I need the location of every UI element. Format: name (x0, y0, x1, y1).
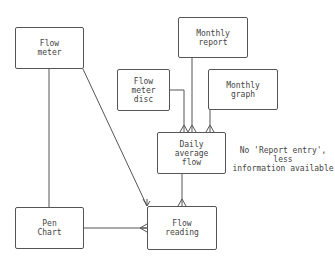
entity-flow-reading[interactable]: Flow reading (147, 206, 217, 250)
entity-flow-meter[interactable]: Flow meter (15, 27, 84, 69)
entity-monthly-report[interactable]: Monthly report (178, 17, 248, 58)
entity-daily-average-flow[interactable]: Daily average flow (157, 132, 226, 174)
entity-pen-chart[interactable]: Pen Chart (15, 207, 84, 249)
annotation-note: No 'Report entry', less information avai… (231, 146, 335, 173)
entity-monthly-graph[interactable]: Monthly graph (208, 69, 278, 110)
entity-flow-meter-disc[interactable]: Flow meter disc (117, 69, 170, 111)
link-disc-daily (170, 90, 184, 132)
